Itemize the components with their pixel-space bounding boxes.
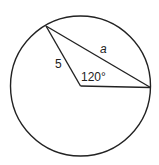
angle-label: 120° xyxy=(81,70,106,84)
radius-upper-left xyxy=(46,26,81,86)
radius-right xyxy=(81,86,151,88)
chord-label: a xyxy=(100,42,107,56)
circle-diagram: 5 a 120° xyxy=(0,0,159,165)
radius-label: 5 xyxy=(55,57,62,71)
